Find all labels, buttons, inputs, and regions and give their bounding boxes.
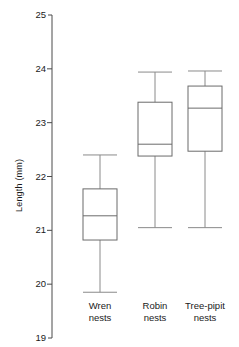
box-plot-tree-pipit <box>188 71 222 228</box>
box-plot-chart: Length (mm) 25 24 23 22 21 20 19 Wren ne… <box>0 0 239 347</box>
plot-svg <box>0 0 239 347</box>
box-plot-wren <box>83 155 117 292</box>
box-iqr <box>83 189 117 240</box>
box-iqr <box>188 86 222 151</box>
y-axis <box>47 15 52 338</box>
box-plot-robin <box>138 72 172 228</box>
box-iqr <box>138 102 172 156</box>
